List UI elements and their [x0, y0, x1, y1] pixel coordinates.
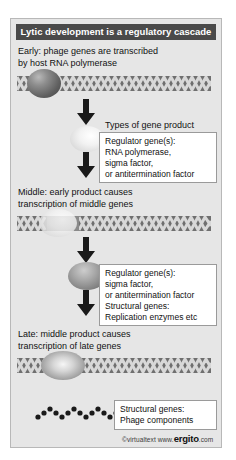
arrow-down-4: [77, 290, 95, 316]
middle-caption-line2: transcription of middle genes: [18, 198, 133, 210]
www-text: www.: [158, 436, 174, 443]
early-caption-line1: Early: phage genes are transcribed: [18, 45, 158, 57]
middle-product-line5: Replication enzymes etc: [105, 312, 212, 323]
middle-caption-line1: Middle: early product causes: [18, 186, 133, 198]
middle-product-box: Regulator gene(s): sigma factor, or anti…: [99, 264, 217, 326]
late-caption-line1: Late: middle product causes: [18, 328, 131, 340]
figure-title: Lytic development is a regulatory cascad…: [16, 24, 216, 40]
products-header: Types of gene product: [105, 120, 194, 130]
copyright-text: ©virtualtext: [122, 436, 156, 443]
early-product-line1: Regulator gene(s):: [105, 136, 212, 147]
late-product-line1: Structural genes:: [120, 404, 212, 415]
late-product-line2: Phage components: [120, 415, 212, 426]
dotcom-text: .com: [199, 436, 214, 443]
middle-product-line4: Structural genes:: [105, 301, 212, 312]
arrow-down-2: [77, 152, 95, 178]
late-polymerase-sphere: [41, 351, 85, 380]
credit-line: ©virtualtext www.ergito.com: [122, 433, 213, 444]
early-product-line4: or antitermination factor: [105, 169, 212, 180]
early-caption-line2: by host RNA polymerase: [18, 57, 117, 69]
early-product-line2: RNA polymerase,: [105, 147, 212, 158]
middle-product-line2: sigma factor,: [105, 279, 212, 290]
arrow-down-1: [77, 99, 95, 125]
rna-polymerase-sphere-early: [27, 69, 61, 98]
phage-components-chain: [35, 405, 119, 425]
brand-name: ergito: [174, 433, 199, 444]
middle-product-line3: or antitermination factor: [105, 290, 212, 301]
arrow-down-3: [77, 237, 95, 263]
figure-panel: Lytic development is a regulatory cascad…: [10, 18, 222, 448]
sigma-factor-sphere-middle: [39, 209, 77, 237]
late-caption-line2: transcription of late genes: [18, 340, 121, 352]
late-product-box: Structural genes: Phage components: [114, 400, 217, 430]
early-product-box: Regulator gene(s): RNA polymerase, sigma…: [99, 132, 217, 183]
middle-product-line1: Regulator gene(s):: [105, 268, 212, 279]
early-product-line3: sigma factor,: [105, 158, 212, 169]
